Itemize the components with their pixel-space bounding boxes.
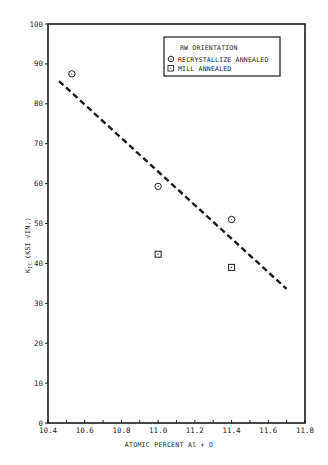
- legend-title: RW ORIENTATION: [180, 44, 238, 52]
- x-tick-label: 11.4: [223, 426, 242, 435]
- y-tick-label: 70: [34, 139, 44, 148]
- circle-data-point-dot: [71, 73, 72, 74]
- x-tick-label: 11.6: [259, 426, 278, 435]
- y-tick-label: 30: [34, 299, 44, 308]
- ylabel-units: (KSI: [24, 242, 32, 259]
- y-tick-label: 50: [34, 219, 44, 228]
- trend-line: [59, 81, 287, 289]
- x-tick-label: 10.8: [112, 426, 131, 435]
- legend-label-mill: MILL ANNEALED: [178, 65, 231, 73]
- svg-text:KIC(KSI√IN.): KIC(KSI√IN.): [24, 217, 33, 273]
- plot-frame: [48, 24, 305, 423]
- y-axis-label: KIC(KSI√IN.): [24, 217, 33, 273]
- x-tick-label: 11.0: [149, 426, 168, 435]
- square-data-point-dot: [231, 267, 232, 268]
- ylabel-sqrt-arg: IN.: [24, 221, 32, 234]
- y-tick-label: 20: [34, 339, 44, 348]
- square-data-point-dot: [158, 254, 159, 255]
- y-tick-label: 60: [34, 179, 44, 188]
- data-points: [69, 71, 235, 271]
- x-tick-label: 10.6: [76, 426, 95, 435]
- square-marker-dot: [170, 68, 171, 69]
- x-tick-label: 11.8: [296, 426, 315, 435]
- x-tick-label: 10.4: [39, 426, 58, 435]
- x-tick-label: 11.2: [186, 426, 204, 435]
- ylabel-close: ): [24, 217, 32, 221]
- y-axis-ticks: 0102030405060708090100: [29, 20, 48, 428]
- circle-data-point-dot: [158, 186, 159, 187]
- ylabel-sub: IC: [27, 262, 33, 269]
- y-tick-label: 80: [34, 99, 44, 108]
- chart: 0102030405060708090100 10.410.610.811.01…: [0, 0, 328, 465]
- circle-marker-dot: [171, 59, 172, 60]
- legend-label-recrystallize: RECRYSTALLIZE ANNEALED: [178, 56, 269, 64]
- y-tick-label: 100: [29, 20, 43, 29]
- legend: RW ORIENTATION RECRYSTALLIZE ANNEALED MI…: [164, 37, 280, 76]
- y-tick-label: 10: [34, 379, 44, 388]
- circle-data-point-dot: [231, 219, 232, 220]
- y-tick-label: 90: [34, 59, 44, 68]
- y-tick-label: 40: [34, 259, 44, 268]
- x-axis-label: ATOMIC PERCENT Al + O: [125, 441, 213, 449]
